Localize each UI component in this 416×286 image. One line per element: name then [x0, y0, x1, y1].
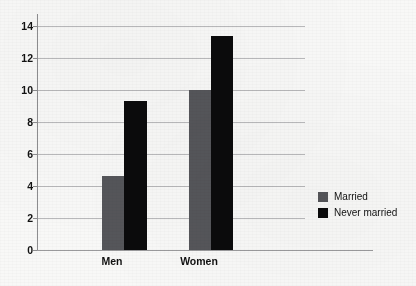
- legend: Married Never married: [318, 192, 397, 224]
- y-axis-tick-labels: 14 12 10 8 6 4 2 0: [0, 0, 33, 286]
- gridline: [38, 58, 305, 59]
- y-axis-line: [37, 14, 38, 251]
- y-tick-label: 14: [3, 21, 33, 32]
- y-tick-mark: [33, 26, 37, 27]
- legend-label: Married: [334, 192, 368, 202]
- bar-women-married: [189, 90, 211, 250]
- legend-item-married: Married: [318, 192, 397, 202]
- y-tick-mark: [33, 58, 37, 59]
- y-tick-label: 2: [3, 213, 33, 224]
- gridline: [38, 154, 305, 155]
- x-tick-label-men: Men: [82, 256, 142, 267]
- gridline: [38, 122, 305, 123]
- y-tick-label: 4: [3, 181, 33, 192]
- bar-chart: 14 12 10 8 6 4 2 0 Men Women Married Nev…: [0, 0, 416, 286]
- bar-men-married: [102, 176, 124, 250]
- bar-men-never-married: [124, 101, 147, 250]
- gridline: [38, 218, 305, 219]
- bar-women-never-married: [211, 36, 233, 250]
- gridline: [38, 26, 305, 27]
- x-tick-label-women: Women: [169, 256, 229, 267]
- y-tick-mark: [33, 250, 37, 251]
- y-tick-label: 6: [3, 149, 33, 160]
- legend-label: Never married: [334, 208, 397, 218]
- x-axis-line: [37, 250, 373, 251]
- gridline: [38, 186, 305, 187]
- legend-swatch-icon: [318, 192, 328, 202]
- gridline: [38, 90, 305, 91]
- y-tick-label: 12: [3, 53, 33, 64]
- y-tick-mark: [33, 122, 37, 123]
- legend-swatch-icon: [318, 208, 328, 218]
- y-tick-label: 10: [3, 85, 33, 96]
- plot-area: [38, 26, 305, 250]
- y-tick-mark: [33, 218, 37, 219]
- y-tick-mark: [33, 154, 37, 155]
- y-tick-label: 8: [3, 117, 33, 128]
- legend-item-never-married: Never married: [318, 208, 397, 218]
- y-tick-mark: [33, 186, 37, 187]
- y-tick-mark: [33, 90, 37, 91]
- y-tick-label: 0: [3, 245, 33, 256]
